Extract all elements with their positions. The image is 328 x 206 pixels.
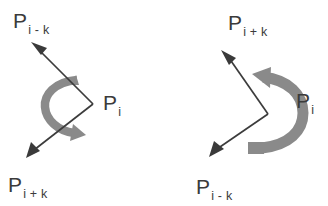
label-subscript: i xyxy=(311,103,314,117)
label-subscript: i - k xyxy=(28,23,50,37)
label-base: P xyxy=(196,175,210,198)
label-subscript: i + k xyxy=(243,25,268,39)
figure-container: Pi - k Pi + k Pi xyxy=(0,0,328,206)
label-base: P xyxy=(13,9,27,32)
label-subscript: i - k xyxy=(211,189,233,203)
label-base: P xyxy=(296,89,310,112)
label-base: P xyxy=(228,11,242,34)
label-base: P xyxy=(8,173,22,196)
angle-orientation-diagram: Pi - k Pi + k Pi xyxy=(0,0,328,206)
label-subscript: i xyxy=(118,105,121,119)
sweep-arc-tail xyxy=(248,142,264,154)
label-subscript: i + k xyxy=(23,187,48,201)
label-base: P xyxy=(103,91,117,114)
